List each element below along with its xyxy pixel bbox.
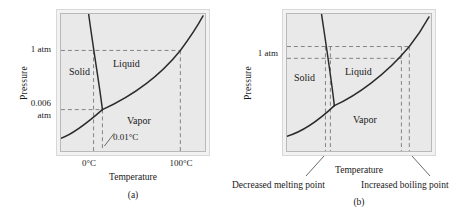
panel-b-callout-decreased-melting-point: Decreased melting point [232,180,325,190]
panel-a-y-tick-triple-pressure-line2: atm [0,110,51,120]
panel-a-annotation-triple-point-temp: 0.01°C [113,132,138,142]
panel-b-plot-area: Solid Liquid Vapor [286,13,432,152]
panel-a-caption: (a) [56,190,210,200]
panel-b-fusion-curve [322,14,335,106]
panel-b-callout-increased-boiling-point: Increased boiling point [361,180,449,190]
panel-a-y-tick-1atm: 1 atm [0,44,51,54]
panel-a-plot-frame: Solid Liquid Vapor 0.01°C [56,9,210,156]
panel-b-caption: (b) [282,197,436,207]
panel-a-x-axis-label: Temperature [56,172,210,182]
panel-b-region-liquid: Liquid [345,66,372,77]
panel-b-region-vapor: Vapor [353,114,377,125]
panel-a-x-tick-0c: 0°C [69,158,109,168]
panel-a-region-solid: Solid [69,66,90,77]
panel-a-x-tick-100c: 100°C [158,158,204,168]
panel-b-sublimation-curve [287,106,334,137]
panel-a-region-vapor: Vapor [127,115,151,126]
panel-a-y-tick-triple-pressure-line1: 0.006 [0,98,51,108]
panel-a: Pressure 1 atm 0.006 atm [0,0,236,218]
panel-b-plot-frame: Solid Liquid Vapor [282,9,436,156]
panel-b-vaporization-curve [334,17,429,106]
phase-diagram-figure: Pressure 1 atm 0.006 atm [0,0,472,218]
panel-b-region-solid: Solid [294,72,315,83]
panel-a-plot-area: Solid Liquid Vapor 0.01°C [60,13,206,152]
panel-b-x-axis-label: Temperature [282,165,436,175]
panel-b-y-axis-label: Pressure [243,53,253,113]
panel-a-region-liquid: Liquid [113,58,140,69]
panel-a-plot-svg [61,14,205,151]
panel-b: Pressure 1 atm [236,0,472,218]
panel-b-y-tick-1atm: 1 atm [228,48,278,58]
panel-a-sublimation-curve [61,110,102,139]
panel-a-fusion-curve [89,14,103,110]
